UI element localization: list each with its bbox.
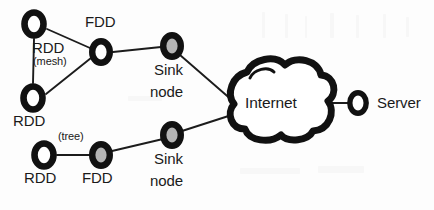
link-fdd-sink-top	[113, 47, 161, 52]
node-label-server: Server	[377, 95, 421, 110]
tree-annotation: (tree)	[58, 131, 84, 142]
node-label-rdd-top: RDD	[32, 40, 64, 55]
node-label-rdd-bottom-left: RDD	[13, 113, 45, 128]
node-label-sink-top-line1: Sink	[154, 62, 183, 77]
node-label-fdd-top: FDD	[85, 14, 116, 29]
node-label-sink-bottom-line2: node	[150, 173, 183, 188]
node-rdd-bottom-left[interactable]	[24, 87, 43, 110]
node-rdd-tree[interactable]	[35, 144, 54, 167]
node-server[interactable]	[350, 93, 366, 113]
node-label-sink-bottom-line1: Sink	[154, 151, 183, 166]
cloud-label-internet: Internet	[245, 95, 297, 111]
node-label-rdd-tree: RDD	[24, 170, 56, 185]
diagram-graphics	[0, 0, 434, 210]
mesh-annotation: (mesh)	[33, 56, 67, 67]
node-label-sink-top-line2: node	[150, 84, 183, 99]
node-fdd-tree[interactable]	[92, 144, 110, 166]
node-rdd-top[interactable]	[25, 13, 44, 36]
network-diagram-canvas: RDD RDD FDD Sink node RDD FDD Sink node …	[0, 0, 434, 210]
node-sink-top[interactable]	[163, 35, 181, 57]
node-sink-bottom[interactable]	[163, 124, 181, 146]
node-fdd-top[interactable]	[92, 41, 110, 63]
node-label-fdd-tree: FDD	[82, 170, 113, 185]
